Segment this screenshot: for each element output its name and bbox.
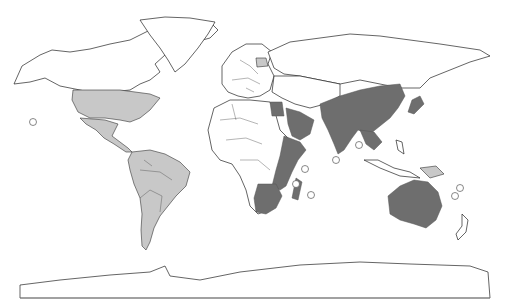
marker-vanuatu-icon[interactable]	[457, 185, 464, 192]
region-europe	[222, 44, 274, 98]
marker-comoros-icon[interactable]	[293, 181, 300, 188]
region-poland[interactable]	[256, 58, 268, 67]
region-south-america[interactable]	[128, 150, 190, 250]
region-mexico-central-america[interactable]	[80, 118, 132, 152]
region-papua-new-guinea[interactable]	[420, 166, 444, 178]
region-indonesia	[364, 160, 420, 178]
region-egypt[interactable]	[270, 102, 284, 116]
region-antarctica	[20, 262, 490, 298]
marker-maldives-icon[interactable]	[333, 157, 340, 164]
marker-seychelles-icon[interactable]	[302, 166, 309, 173]
world-map	[0, 0, 506, 307]
region-usa[interactable]	[72, 90, 160, 122]
region-arabian-peninsula[interactable]	[286, 108, 314, 140]
region-southern-africa[interactable]	[254, 184, 282, 214]
region-japan[interactable]	[408, 96, 424, 114]
region-australia[interactable]	[388, 180, 442, 228]
marker-mauritius-icon[interactable]	[308, 192, 315, 199]
marker-new-caledonia-icon[interactable]	[452, 193, 459, 200]
region-indochina[interactable]	[360, 130, 382, 150]
region-philippines	[396, 140, 404, 154]
region-new-zealand	[456, 214, 468, 240]
marker-andaman-icon[interactable]	[356, 142, 363, 149]
marker-pacific-island-icon[interactable]	[30, 119, 37, 126]
